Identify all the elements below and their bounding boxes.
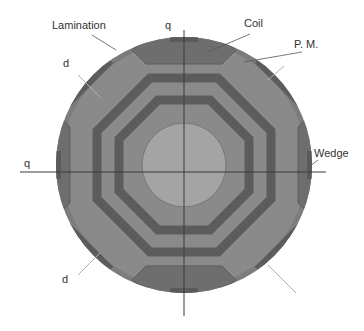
- label-d-upper: d: [63, 58, 69, 69]
- label-q-left: q: [24, 158, 30, 169]
- label-coil: Coil: [244, 18, 263, 29]
- wedge-left: [56, 151, 61, 179]
- label-q-top: q: [165, 20, 171, 31]
- d-axis-lower-right: [268, 265, 296, 293]
- leader-lamination: [92, 35, 116, 50]
- label-pm: P. M.: [294, 39, 318, 50]
- d-axis-lower-left: [78, 253, 100, 275]
- label-wedge: Wedge: [314, 148, 349, 159]
- label-lamination: Lamination: [52, 20, 106, 31]
- label-d-lower: d: [62, 274, 68, 285]
